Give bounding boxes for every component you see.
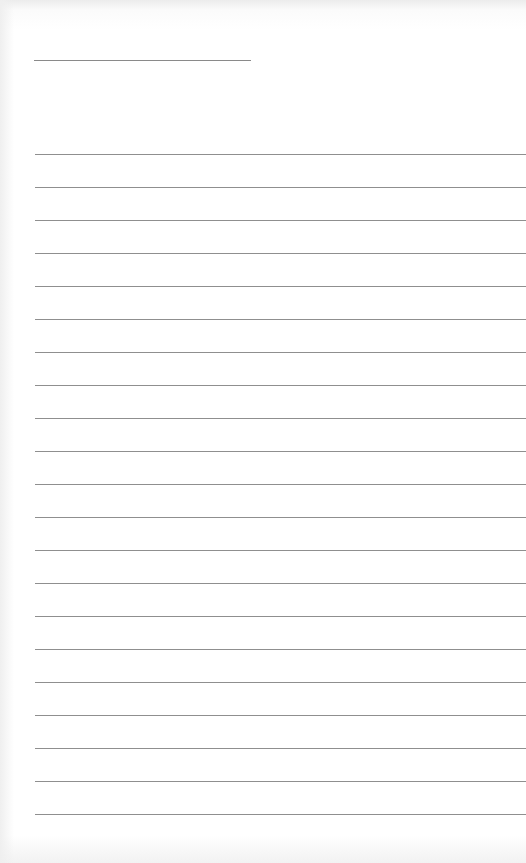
ruled-line [35, 649, 526, 650]
title-line [34, 60, 251, 61]
ruled-line [35, 814, 526, 815]
ruled-line [35, 781, 526, 782]
ruled-line [35, 451, 526, 452]
ruled-line [35, 220, 526, 221]
paper-page [0, 0, 526, 863]
ruled-line [35, 550, 526, 551]
ruled-line [35, 253, 526, 254]
ruled-line [35, 187, 526, 188]
ruled-line [35, 385, 526, 386]
ruled-line [35, 352, 526, 353]
ruled-line [35, 154, 526, 155]
ruled-line [35, 616, 526, 617]
ruled-line [35, 484, 526, 485]
page-edge-shadow [0, 0, 14, 863]
ruled-line [35, 682, 526, 683]
ruled-line [35, 583, 526, 584]
ruled-line [35, 286, 526, 287]
ruled-line [35, 748, 526, 749]
ruled-line [35, 418, 526, 419]
ruled-line [35, 319, 526, 320]
ruled-line [35, 517, 526, 518]
ruled-line [35, 715, 526, 716]
